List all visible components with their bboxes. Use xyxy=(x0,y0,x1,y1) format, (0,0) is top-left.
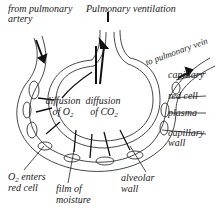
label-plasma: plasma xyxy=(168,108,197,118)
label-from-pulmonary-artery-2: artery xyxy=(8,14,32,24)
label-film-of-moisture-1: film of xyxy=(56,184,82,194)
label-alveolar-wall-2: wall xyxy=(121,184,138,194)
label-diffusion-co2-2: of CO2 xyxy=(78,107,130,120)
alveolus-diagram: from pulmonary artery Pulmonary ventilat… xyxy=(0,0,217,211)
label-capillary: capillary xyxy=(168,70,204,80)
label-diffusion-co2-1: diffusion xyxy=(78,96,128,106)
label-capillary-wall-2: wall xyxy=(168,138,185,148)
label-film-of-moisture-2: moisture xyxy=(56,195,91,205)
label-o2-enters-2: red cell xyxy=(8,183,38,193)
label-pulmonary-ventilation: Pulmonary ventilation xyxy=(86,4,176,14)
label-red-cell: red cell xyxy=(168,91,198,101)
label-alveolar-wall-1: alveolar xyxy=(121,173,154,183)
